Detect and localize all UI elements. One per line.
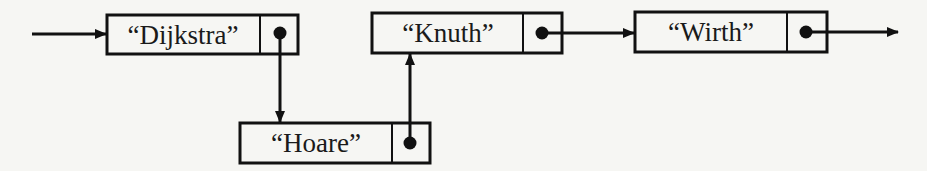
linked-list-diagram: “Dijkstra” “Hoare” “Knuth” “Wirth” [0,0,927,171]
list-node-dijkstra: “Dijkstra” [107,15,298,54]
node-label: “Knuth” [402,18,493,48]
list-node-wirth: “Wirth” [635,12,827,52]
node-label: “Dijkstra” [128,20,239,50]
node-label: “Wirth” [668,17,754,47]
node-label: “Hoare” [271,128,361,158]
list-node-hoare: “Hoare” [240,123,430,163]
list-node-knuth: “Knuth” [372,13,562,53]
